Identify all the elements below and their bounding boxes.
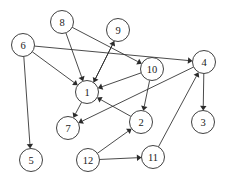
edge-layer xyxy=(24,27,207,161)
edge-10-to-2 xyxy=(144,80,149,106)
node-circle-4[interactable] xyxy=(193,51,216,74)
arrowhead-10-to-2 xyxy=(141,106,147,111)
node-circle-6[interactable] xyxy=(12,34,35,57)
node-3[interactable]: 3 xyxy=(192,111,215,134)
arrowhead-12-to-11 xyxy=(137,155,142,161)
edge-1-to-7 xyxy=(76,102,82,114)
node-1[interactable]: 1 xyxy=(76,81,99,104)
arrowhead-4-to-3 xyxy=(200,106,206,111)
node-circle-5[interactable] xyxy=(20,149,43,172)
edge-12-to-11 xyxy=(99,158,136,160)
node-circle-7[interactable] xyxy=(57,117,80,140)
node-8[interactable]: 8 xyxy=(51,11,74,34)
node-9[interactable]: 9 xyxy=(107,19,130,42)
node-circle-9[interactable] xyxy=(107,19,130,42)
node-12[interactable]: 12 xyxy=(77,149,100,172)
node-circle-10[interactable] xyxy=(141,58,164,81)
node-7[interactable]: 7 xyxy=(57,117,80,140)
arrowhead-6-to-5 xyxy=(27,144,33,149)
node-6[interactable]: 6 xyxy=(12,34,35,57)
node-11[interactable]: 11 xyxy=(142,146,165,169)
arrowhead-12-to-2 xyxy=(126,129,132,134)
edge-12-to-2 xyxy=(97,131,128,153)
node-2[interactable]: 2 xyxy=(130,111,153,134)
node-circle-8[interactable] xyxy=(51,11,74,34)
node-4[interactable]: 4 xyxy=(193,51,216,74)
edge-11-to-4 xyxy=(158,76,196,147)
edge-6-to-5 xyxy=(24,56,30,143)
node-layer: 123456789101112 xyxy=(12,11,216,172)
graph-diagram: 123456789101112 xyxy=(0,0,226,179)
node-circle-12[interactable] xyxy=(77,149,100,172)
arrowhead-6-to-4 xyxy=(188,57,193,63)
edge-2-to-1 xyxy=(101,100,131,117)
arrowhead-6-to-1 xyxy=(72,80,78,85)
node-circle-3[interactable] xyxy=(192,111,215,134)
node-10[interactable]: 10 xyxy=(141,58,164,81)
node-circle-11[interactable] xyxy=(142,146,165,169)
edge-6-to-4 xyxy=(34,46,188,60)
edge-4-to-3 xyxy=(203,74,204,106)
edge-8-to-1 xyxy=(66,33,82,77)
edge-10-to-1 xyxy=(102,73,141,87)
edge-6-to-1 xyxy=(32,52,74,83)
node-circle-1[interactable] xyxy=(76,81,99,104)
edge-1-to-9 xyxy=(94,45,113,82)
node-circle-2[interactable] xyxy=(130,111,153,134)
graph-canvas: 123456789101112 xyxy=(0,0,226,179)
node-5[interactable]: 5 xyxy=(20,149,43,172)
